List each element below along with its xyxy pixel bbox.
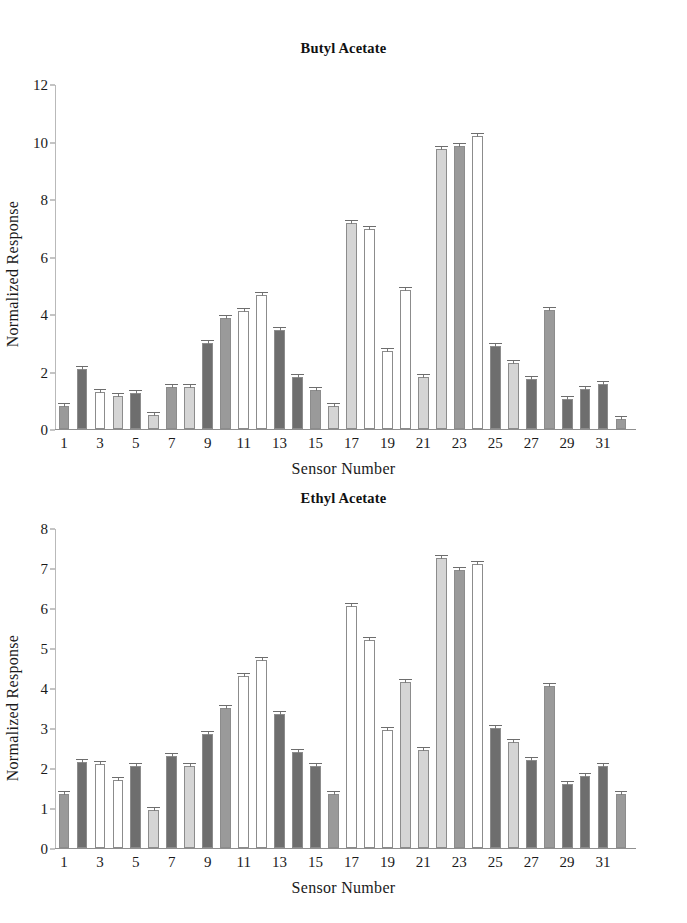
- error-bar-cap: [453, 143, 466, 144]
- x-tick-label: 17: [344, 855, 359, 870]
- x-axis-line-ethyl: [55, 848, 636, 849]
- x-tick-label: 13: [272, 855, 287, 870]
- x-tick-label: 17: [344, 436, 359, 451]
- bar: [95, 764, 106, 848]
- bar: [148, 810, 159, 848]
- x-tick-label: 9: [204, 855, 212, 870]
- error-bar-cap: [273, 711, 286, 712]
- bar: [580, 389, 591, 429]
- bar: [526, 760, 537, 848]
- error-bar-cap: [129, 390, 142, 391]
- bar: [256, 660, 267, 848]
- error-bar-cap: [525, 757, 538, 758]
- bar: [238, 311, 249, 429]
- error-bar-cap: [525, 376, 538, 377]
- error-bar-cap: [471, 133, 484, 134]
- x-axis-label-ethyl: Sensor Number: [0, 879, 687, 897]
- bar: [364, 640, 375, 848]
- bar: [580, 776, 591, 848]
- bar: [598, 384, 609, 429]
- y-axis-label-text-ethyl: Normalized Response: [4, 635, 22, 782]
- x-tick-label: 27: [524, 436, 539, 451]
- error-bar-cap: [381, 727, 394, 728]
- error-bar-cap: [309, 763, 322, 764]
- x-tick-label: 1: [60, 436, 68, 451]
- bar: [472, 136, 483, 429]
- bar: [526, 379, 537, 429]
- error-bar-cap: [255, 657, 268, 658]
- bar: [328, 794, 339, 848]
- bar: [238, 676, 249, 848]
- bar: [77, 369, 88, 429]
- error-bar-cap: [543, 307, 556, 308]
- error-bar-cap: [597, 763, 610, 764]
- error-bar-cap: [561, 396, 574, 397]
- bar: [292, 377, 303, 429]
- error-bar-cap: [237, 308, 250, 309]
- x-tick-label: 31: [596, 436, 611, 451]
- bar: [400, 682, 411, 848]
- x-tick-label: 23: [452, 855, 467, 870]
- x-tick-label: 29: [560, 436, 575, 451]
- bar: [310, 766, 321, 848]
- bar: [544, 686, 555, 848]
- bar: [113, 396, 124, 429]
- bar: [562, 399, 573, 429]
- bar: [77, 762, 88, 848]
- bar: [292, 752, 303, 848]
- x-tick-label: 21: [416, 436, 431, 451]
- error-bar-cap: [615, 791, 628, 792]
- error-bar-cap: [291, 374, 304, 375]
- x-tick-label: 5: [132, 855, 140, 870]
- x-tick-label: 13: [272, 436, 287, 451]
- bar: [166, 756, 177, 848]
- error-bar-cap: [435, 555, 448, 556]
- error-bar-cap: [471, 561, 484, 562]
- y-axis-label-ethyl: Normalized Response: [0, 507, 26, 909]
- error-bar-cap: [507, 360, 520, 361]
- error-bar-cap: [561, 781, 574, 782]
- x-tick-label: 23: [452, 436, 467, 451]
- error-bar-cap: [363, 637, 376, 638]
- bar: [346, 223, 357, 429]
- y-tick-mark: [50, 430, 55, 431]
- bar: [616, 419, 627, 429]
- bar: [184, 387, 195, 429]
- x-tick-label: 21: [416, 855, 431, 870]
- error-bar-cap: [219, 705, 232, 706]
- bar: [202, 343, 213, 429]
- error-bar-cap: [76, 366, 89, 367]
- error-bar-cap: [58, 403, 71, 404]
- axis-box-butyl: 024681012: [55, 85, 630, 430]
- x-tick-label: 3: [96, 855, 104, 870]
- error-bar-cap: [489, 725, 502, 726]
- error-bar-cap: [201, 731, 214, 732]
- bar: [562, 784, 573, 848]
- error-bar-cap: [309, 387, 322, 388]
- bar: [418, 377, 429, 429]
- bar: [130, 393, 141, 429]
- bar: [508, 742, 519, 848]
- error-bar-cap: [147, 807, 160, 808]
- plot-area-butyl: Normalized Response 024681012 1357911131…: [0, 57, 687, 490]
- error-bar-cap: [94, 761, 107, 762]
- x-tick-label: 5: [132, 436, 140, 451]
- plot-area-ethyl: Normalized Response 012345678 1357911131…: [0, 507, 687, 909]
- bar: [220, 708, 231, 848]
- x-tick-label: 15: [308, 436, 323, 451]
- error-bar-cap: [417, 747, 430, 748]
- y-axis-label-text-butyl: Normalized Response: [4, 200, 22, 347]
- bar: [328, 406, 339, 429]
- error-bar-cap: [579, 773, 592, 774]
- error-bar-cap: [615, 416, 628, 417]
- bar: [220, 318, 231, 429]
- error-bar-cap: [183, 384, 196, 385]
- chart-title-ethyl: Ethyl Acetate: [0, 478, 687, 507]
- x-tick-label: 25: [488, 436, 503, 451]
- error-bar-cap: [112, 777, 125, 778]
- bar: [454, 146, 465, 429]
- error-bar-cap: [219, 315, 232, 316]
- y-tick-mark: [50, 849, 55, 850]
- bar: [113, 780, 124, 848]
- bar: [490, 346, 501, 429]
